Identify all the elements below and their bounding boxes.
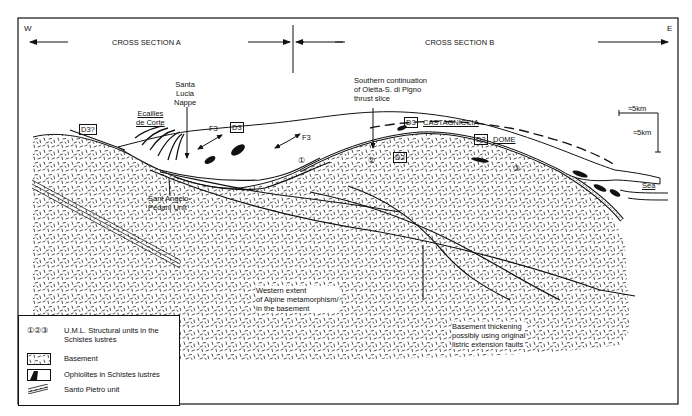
d3-question-badge: D3? (79, 124, 97, 135)
legend-santo-pietro-text: Santo Pietro unit (64, 385, 119, 394)
sant-angelo-label: Sant Angelo- Pedani Unit (148, 194, 191, 212)
d3-castagniccia-badge: D3 (404, 117, 418, 128)
cross-section-a-title: CROSS SECTION A (112, 38, 181, 47)
dome-label: DOME (493, 135, 516, 144)
legend-basement-text: Basement (64, 354, 98, 363)
f3-mid-label: F3 (302, 133, 311, 142)
east-label: E (667, 24, 673, 33)
d3-left-badge: D3 (230, 122, 244, 133)
legend-santo-pietro-swatch (27, 384, 49, 394)
legend-ophiolite-text: Ophiolites in Schistes lustrés (64, 370, 160, 379)
basement-thickening-label: Basement thickening possibly using origi… (452, 322, 525, 349)
west-label: W (24, 24, 32, 33)
legend-units-text: U.M.L. Structural units in the Schistes … (64, 326, 159, 344)
western-extent-label: Western extent of Alpine metamorphism/ i… (256, 286, 339, 313)
castagniccia-label: CASTAGNICCIA (423, 118, 479, 127)
d2-inner-badge: D2 (393, 152, 407, 163)
header-arrows (30, 25, 668, 73)
f3-left-label: F3 (209, 124, 218, 133)
unit-1-marker: ① (298, 156, 305, 165)
scale-vertical: ≈5km (633, 128, 651, 137)
ecailles-label: Ecailles de Corte (136, 109, 165, 127)
southern-continuation-label: Southern continuation of Oletta-S. di Pi… (354, 76, 427, 103)
santa-lucia-label: Santa Lucia Nappe (174, 80, 196, 107)
unit-2-marker: ② (368, 156, 375, 165)
sea-surface (620, 190, 668, 200)
legend-units-symbol: ①②③ (27, 326, 48, 335)
sea-label: Sea (642, 181, 655, 190)
cross-section-b-title: CROSS SECTION B (425, 38, 494, 47)
legend-ophiolite-swatch (27, 369, 51, 381)
scale-horizontal: ≈5km (628, 104, 646, 113)
d2-dome-badge: D2 (474, 134, 488, 145)
unit-3-marker: ③ (513, 164, 520, 173)
legend: ①②③ U.M.L. Structural units in the Schis… (18, 315, 180, 406)
legend-basement-swatch (27, 353, 51, 365)
